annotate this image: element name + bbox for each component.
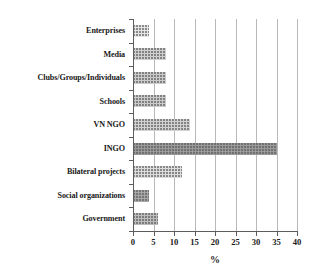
category-label: Enterprises <box>86 19 125 43</box>
y-tick-mark <box>129 90 133 91</box>
bar <box>133 166 182 178</box>
category-label: Bilateral projects <box>67 160 125 184</box>
bar <box>133 143 277 155</box>
bar-row <box>133 184 297 208</box>
plot-area <box>133 19 297 231</box>
y-tick-mark <box>129 160 133 161</box>
category-label: INGO <box>104 137 125 161</box>
bar-series <box>133 19 297 231</box>
x-tick-label: 15 <box>190 237 199 247</box>
bar <box>133 119 190 131</box>
y-tick-mark <box>129 66 133 67</box>
bar <box>133 72 166 84</box>
bar-chart: EnterprisesMediaClubs/Groups/Individuals… <box>0 0 314 278</box>
bar <box>133 190 149 202</box>
x-tick-label: 40 <box>293 237 302 247</box>
gridline-40 <box>297 19 298 231</box>
x-tick-label: 0 <box>131 237 135 247</box>
y-tick-mark <box>129 184 133 185</box>
category-label: Government <box>82 207 125 231</box>
y-tick-mark <box>129 113 133 114</box>
x-tick-label: 5 <box>151 237 155 247</box>
bar-row <box>133 207 297 231</box>
bar-row <box>133 19 297 43</box>
x-tick-mark <box>174 232 175 236</box>
bar-row <box>133 90 297 114</box>
x-tick-mark <box>195 232 196 236</box>
y-tick-mark <box>129 207 133 208</box>
bar-row <box>133 160 297 184</box>
x-tick-mark <box>277 232 278 236</box>
x-tick-mark <box>236 232 237 236</box>
x-tick-mark <box>297 232 298 236</box>
bar-row <box>133 137 297 161</box>
bar <box>133 48 166 60</box>
bar <box>133 25 149 37</box>
x-tick-mark <box>215 232 216 236</box>
x-tick-mark <box>256 232 257 236</box>
bar-row <box>133 66 297 90</box>
y-axis-line <box>133 19 134 232</box>
x-tick-label: 30 <box>252 237 261 247</box>
x-tick-label: 35 <box>272 237 281 247</box>
category-label: Social organizations <box>58 184 125 208</box>
bar-row <box>133 43 297 67</box>
x-tick-mark <box>154 232 155 236</box>
category-label: Clubs/Groups/Individuals <box>38 66 125 90</box>
y-tick-mark <box>129 19 133 20</box>
bar <box>133 213 158 225</box>
x-tick-label: 20 <box>211 237 220 247</box>
x-axis-title: % <box>133 254 297 265</box>
category-label: Schools <box>100 90 125 114</box>
x-tick-mark <box>133 232 134 236</box>
bar <box>133 95 166 107</box>
category-label: VN NGO <box>93 113 125 137</box>
y-tick-mark <box>129 137 133 138</box>
y-axis-category-labels: EnterprisesMediaClubs/Groups/Individuals… <box>0 19 129 231</box>
category-label: Media <box>103 43 125 67</box>
bar-row <box>133 113 297 137</box>
x-tick-label: 25 <box>231 237 240 247</box>
y-tick-mark <box>129 43 133 44</box>
x-tick-label: 10 <box>170 237 179 247</box>
